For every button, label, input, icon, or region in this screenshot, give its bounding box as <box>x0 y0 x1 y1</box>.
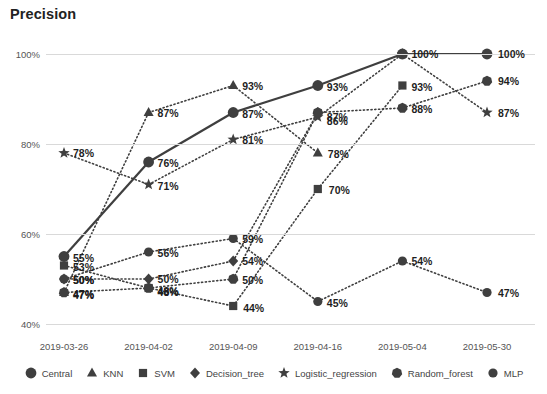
data-point-marker <box>314 185 322 193</box>
data-point-marker <box>398 81 406 89</box>
series-line <box>149 113 234 163</box>
data-point-marker <box>143 157 154 168</box>
data-point-label: 45% <box>327 297 348 309</box>
data-point-marker <box>59 251 70 262</box>
data-point-label: 71% <box>158 180 179 192</box>
data-point-marker <box>228 274 238 284</box>
data-point-label: 78% <box>73 147 94 159</box>
series-line <box>318 261 403 302</box>
heptagon-icon <box>390 366 404 380</box>
legend-label: KNN <box>103 368 123 379</box>
diamond-icon <box>188 366 202 380</box>
circle-small-icon <box>486 366 500 380</box>
data-point-label: 100% <box>411 48 438 60</box>
legend-label: Central <box>42 368 73 379</box>
data-point-label: 54% <box>242 255 263 267</box>
x-axis-tick-label: 2019-03-26 <box>40 341 89 352</box>
data-point-label: 81% <box>242 134 263 146</box>
triangle-icon <box>85 366 99 380</box>
data-point-label: 76% <box>158 157 179 169</box>
data-point-marker <box>482 288 491 297</box>
data-point-marker <box>228 107 239 118</box>
data-point-label: 53% <box>73 261 94 273</box>
data-point-marker <box>482 76 492 86</box>
gridline: 40% <box>46 324 535 325</box>
legend-item-knn[interactable]: KNN <box>85 366 123 380</box>
data-point-marker <box>228 256 238 267</box>
chart-legend: CentralKNNSVMDecision_treeLogistic_regre… <box>0 366 547 380</box>
data-point-label: 56% <box>158 247 179 259</box>
data-point-label: 78% <box>328 148 349 160</box>
x-axis-tick-label: 2019-05-30 <box>463 341 512 352</box>
data-point-marker <box>228 80 238 89</box>
star-icon <box>277 366 291 380</box>
x-axis-tick-label: 2019-04-02 <box>124 341 173 352</box>
data-point-label: 86% <box>327 115 348 127</box>
legend-label: Random_forest <box>408 368 473 379</box>
y-axis-tick-label: 40% <box>21 319 40 330</box>
chart-root: Precision 40%60%80%100%2019-03-262019-04… <box>0 0 547 394</box>
x-axis-tick-label: 2019-05-04 <box>378 341 427 352</box>
data-point-marker <box>481 107 492 118</box>
legend-label: SVM <box>154 368 175 379</box>
data-point-marker <box>60 261 68 269</box>
legend-item-mlp[interactable]: MLP <box>486 366 524 380</box>
legend-item-central[interactable]: Central <box>24 366 73 380</box>
legend-item-logistic_regression[interactable]: Logistic_regression <box>277 366 377 380</box>
data-point-label: 100% <box>498 48 525 60</box>
data-point-label: 88% <box>411 103 432 115</box>
data-point-label: 54% <box>411 255 432 267</box>
data-point-label: 93% <box>411 81 432 93</box>
data-point-label: 70% <box>329 184 350 196</box>
data-point-marker <box>229 302 237 310</box>
data-point-label: 48% <box>158 286 179 298</box>
data-point-label: 94% <box>498 75 519 87</box>
data-point-marker <box>312 80 323 91</box>
data-point-label: 47% <box>498 287 519 299</box>
data-point-marker <box>398 256 407 265</box>
data-point-marker <box>59 274 68 283</box>
series-line <box>64 162 149 257</box>
legend-label: Logistic_regression <box>295 368 377 379</box>
data-point-marker <box>229 234 238 243</box>
data-point-marker <box>313 297 322 306</box>
data-point-label: 50% <box>158 273 179 285</box>
data-point-label: 87% <box>242 108 263 120</box>
y-axis-tick-label: 60% <box>21 229 40 240</box>
legend-label: MLP <box>504 368 524 379</box>
legend-item-random_forest[interactable]: Random_forest <box>390 366 473 380</box>
data-point-marker <box>143 179 154 190</box>
gridline: 80% <box>46 144 535 145</box>
legend-item-svm[interactable]: SVM <box>136 366 175 380</box>
x-axis-tick-label: 2019-04-09 <box>209 341 258 352</box>
data-point-marker <box>397 103 407 113</box>
data-point-label: 59% <box>242 233 263 245</box>
legend-label: Decision_tree <box>206 368 264 379</box>
square-icon <box>136 366 150 380</box>
data-point-marker <box>313 148 323 157</box>
series-line <box>318 86 403 190</box>
data-point-label: 47% <box>73 289 94 301</box>
gridline: 100% <box>46 54 535 55</box>
data-point-label: 87% <box>498 107 519 119</box>
data-point-label: 50% <box>242 274 263 286</box>
data-point-label: 93% <box>242 80 263 92</box>
gridline: 60% <box>46 234 535 235</box>
x-axis-tick-label: 2019-04-16 <box>293 341 342 352</box>
y-axis-tick-label: 100% <box>16 49 40 60</box>
page-title: Precision <box>10 6 76 22</box>
data-point-label: 44% <box>243 302 264 314</box>
series-layer <box>46 36 535 324</box>
y-axis-tick-label: 80% <box>21 139 40 150</box>
data-point-marker <box>144 247 153 256</box>
data-point-marker <box>58 147 69 158</box>
data-point-label: 93% <box>327 81 348 93</box>
data-point-label: 87% <box>158 107 179 119</box>
data-point-marker <box>227 134 238 145</box>
circle-icon <box>24 366 38 380</box>
data-point-label: 50% <box>73 274 94 286</box>
legend-item-decision_tree[interactable]: Decision_tree <box>188 366 264 380</box>
plot-area: 40%60%80%100%2019-03-262019-04-022019-04… <box>46 36 535 324</box>
